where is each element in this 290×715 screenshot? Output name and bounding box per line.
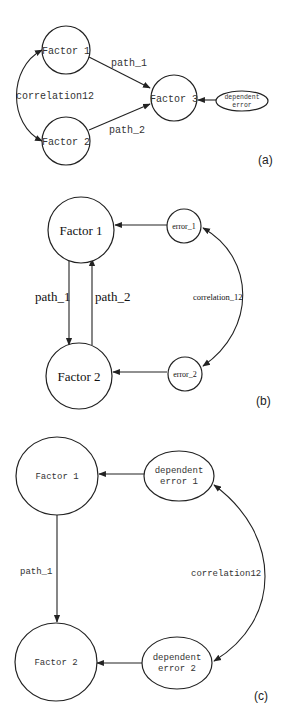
edge-label-correlation: correlation12 — [191, 569, 261, 579]
node-factor3: Factor 3 — [150, 75, 198, 121]
edge-label-path-1: path_1 — [111, 58, 147, 69]
node-label: error_2 — [173, 370, 197, 379]
node-label-line2: error — [232, 102, 252, 109]
node-factor1: Factor 1 — [42, 26, 90, 74]
node-label: error_1 — [172, 222, 196, 231]
node-label-line2: error 1 — [160, 477, 198, 487]
node-label: Factor 2 — [42, 137, 90, 148]
edge-label-correlation: correlation_12 — [193, 292, 243, 302]
node-factor1: Factor 1 — [16, 437, 98, 515]
edge-label-path-1: path_1 — [20, 567, 52, 577]
node-dependent-error: dependent error — [216, 91, 268, 111]
node-label-line1: dependent — [153, 653, 202, 663]
edge-label-correlation: correlation12 — [16, 91, 94, 102]
node-factor2: Factor 2 — [46, 343, 112, 409]
panel-label-c: (c) — [254, 689, 268, 703]
node-label-line1: dependent — [155, 466, 204, 476]
node-label: Factor 1 — [60, 223, 103, 238]
panel-a: Factor 1 Factor 2 Factor 3 dependent err… — [16, 26, 273, 167]
node-label-line1: dependent — [224, 94, 259, 101]
node-error2: error_2 — [168, 357, 202, 391]
edge-label-path-1: path_1 — [35, 289, 70, 304]
panel-label-a: (a) — [258, 153, 273, 167]
edge-label-path-2: path_2 — [109, 125, 145, 136]
node-factor1: Factor 1 — [48, 197, 114, 263]
node-label: Factor 3 — [150, 94, 198, 105]
node-label-line2: error 2 — [158, 664, 196, 674]
panel-label-b: (b) — [256, 394, 271, 408]
node-dependent-error-2: dependent error 2 — [142, 637, 212, 689]
node-error1: error_1 — [167, 209, 201, 243]
node-label: Factor 2 — [58, 369, 101, 384]
node-label: Factor 2 — [34, 658, 77, 668]
node-factor2: Factor 2 — [42, 117, 90, 165]
panel-b: Factor 1 Factor 2 error_1 error_2 path_1… — [35, 197, 271, 409]
node-label: Factor 1 — [35, 472, 78, 482]
edge-label-path-2: path_2 — [95, 289, 130, 304]
sem-diagrams: Factor 1 Factor 2 Factor 3 dependent err… — [0, 0, 290, 715]
node-dependent-error-1: dependent error 1 — [144, 451, 214, 501]
panel-c: Factor 1 Factor 2 dependent error 1 depe… — [15, 437, 268, 703]
node-factor2: Factor 2 — [15, 623, 97, 701]
node-label: Factor 1 — [42, 46, 90, 57]
